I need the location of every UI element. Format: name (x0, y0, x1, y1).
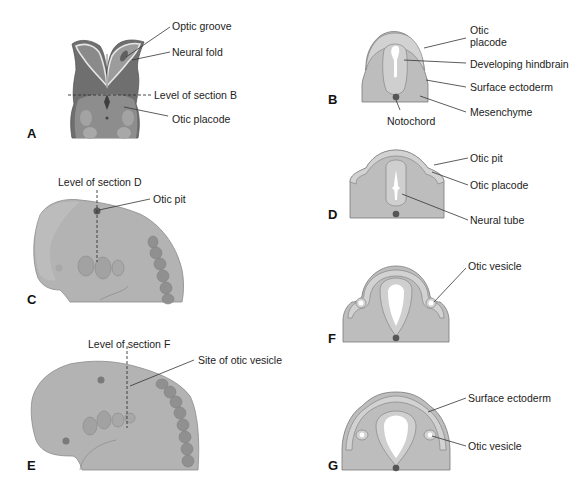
panel-label-a: A (27, 126, 37, 141)
label-site-otic-vesicle: Site of otic vesicle (198, 354, 282, 366)
panel-label-c: C (27, 292, 37, 307)
label-level-section-d: Level of section D (58, 176, 142, 188)
otic-development-figure: Optic groove Neural fold Level of sectio… (0, 0, 585, 482)
label-developing-hindbrain: Developing hindbrain (470, 58, 569, 70)
panel-g: Surface ectoderm Otic vesicle G (328, 392, 551, 473)
label-otic-placode-line2: placode (470, 36, 507, 48)
panel-b: Otic placode Developing hindbrain Surfac… (328, 24, 569, 127)
label-otic-placode-d: Otic placode (470, 179, 529, 191)
label-level-section-b: Level of section B (154, 89, 237, 101)
label-otic-vesicle-f: Otic vesicle (468, 260, 522, 272)
label-neural-fold: Neural fold (172, 46, 223, 58)
label-otic-placode: Otic placode (172, 113, 231, 125)
label-neural-tube: Neural tube (470, 214, 524, 226)
label-surface-ectoderm-g: Surface ectoderm (468, 392, 551, 404)
label-otic-pit-c: Otic pit (153, 193, 186, 205)
panel-label-d: D (328, 207, 337, 222)
label-mesenchyme: Mesenchyme (470, 106, 533, 118)
panel-f: Otic vesicle F (328, 260, 522, 346)
panel-c: Level of section D Otic pit C (27, 176, 186, 307)
panel-e: Level of section F Site of otic vesicle … (27, 338, 282, 473)
panel-label-g: G (328, 458, 338, 473)
label-otic-placode-line1: Otic (470, 24, 489, 36)
label-level-section-f: Level of section F (88, 338, 170, 350)
panel-a: Optic groove Neural fold Level of sectio… (27, 20, 237, 141)
panel-label-e: E (27, 458, 36, 473)
label-optic-groove: Optic groove (172, 20, 232, 32)
label-surface-ectoderm: Surface ectoderm (470, 81, 553, 93)
panel-d: Otic pit Otic placode Neural tube D (328, 150, 529, 226)
label-otic-pit-d: Otic pit (470, 152, 503, 164)
panel-label-f: F (328, 331, 336, 346)
panel-label-b: B (328, 92, 337, 107)
label-notochord: Notochord (387, 115, 436, 127)
label-otic-vesicle-g: Otic vesicle (468, 440, 522, 452)
